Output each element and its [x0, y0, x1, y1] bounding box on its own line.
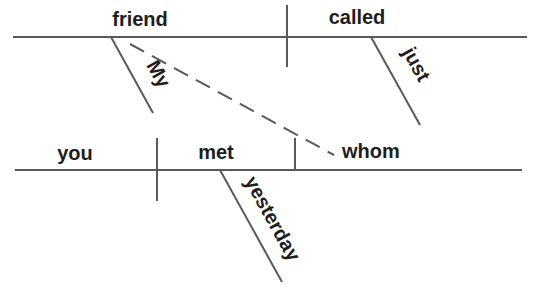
subject-modifier-line: [111, 37, 153, 113]
relative-pronoun-connector: [130, 44, 334, 155]
main-subject: friend: [112, 8, 168, 30]
relative-subject: you: [57, 142, 93, 164]
verb-modifier: just: [398, 42, 435, 85]
subject-modifier: My: [143, 56, 176, 92]
relative-verb: met: [198, 141, 234, 163]
relative-object: whom: [341, 140, 400, 162]
main-verb: called: [329, 6, 386, 28]
relative-verb-modifier: yesterday: [241, 172, 306, 265]
sentence-diagram: friend called My just you met whom yeste…: [0, 0, 534, 291]
